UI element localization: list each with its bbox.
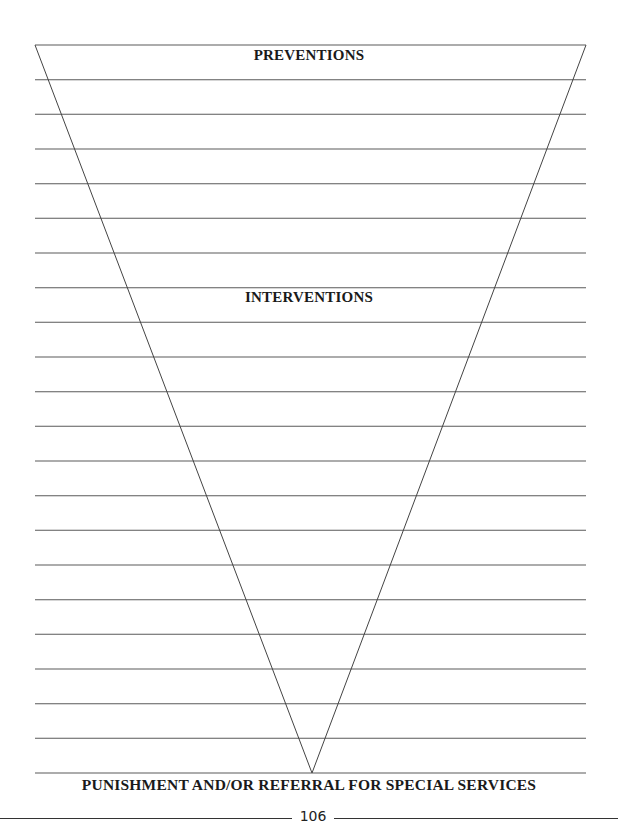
- writing-lines: [35, 45, 586, 773]
- preventions-heading: PREVENTIONS: [0, 47, 618, 64]
- footer-rule-right: [334, 818, 618, 819]
- punishment-referral-heading: PUNISHMENT AND/OR REFERRAL FOR SPECIAL S…: [0, 776, 618, 794]
- page-footer: 106: [0, 806, 618, 830]
- page-number: 106: [292, 808, 334, 824]
- inverted-triangle: [35, 45, 586, 773]
- inverted-triangle-diagram: [0, 0, 618, 832]
- interventions-heading: INTERVENTIONS: [0, 289, 618, 306]
- footer-rule-left: [0, 818, 292, 819]
- worksheet-page: PREVENTIONS INTERVENTIONS PUNISHMENT AND…: [0, 0, 618, 832]
